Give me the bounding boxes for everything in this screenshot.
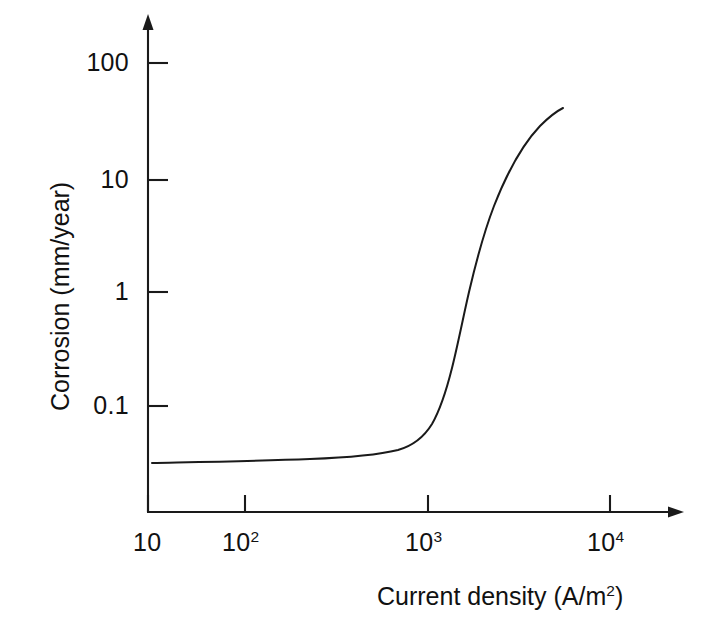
x-axis-arrow-icon [668,507,684,518]
y-tick-label-10: 10 [74,167,129,192]
x-tick-label-100-exponent: 2 [250,528,259,545]
chart-figure: 100 10 1 0.1 10 102 103 104 Corrosion (m… [0,0,707,626]
x-tick-label-1000-mantissa: 10 [405,528,433,556]
x-tick-label-10000-mantissa: 10 [587,528,615,556]
x-axis-title-exponent: 2 [606,582,615,599]
y-axis-title: Corrosion (mm/year) [48,182,73,411]
x-tick-label-10000-exponent: 4 [615,528,624,545]
x-tick-label-1000: 103 [405,530,442,555]
corrosion-curve [152,108,563,463]
y-tick-label-0.1: 0.1 [74,393,129,418]
x-tick-label-100: 102 [222,530,259,555]
x-tick-label-10000: 104 [587,530,624,555]
x-tick-label-10: 10 [133,530,161,555]
x-axis-title: Current density (A/m2) [377,584,623,609]
x-tick-label-10-mantissa: 10 [133,528,161,556]
y-tick-label-100: 100 [74,50,129,75]
y-axis-arrow-icon [143,14,154,30]
y-tick-label-1: 1 [74,279,129,304]
x-tick-label-100-mantissa: 10 [222,528,250,556]
x-tick-label-1000-exponent: 3 [433,528,442,545]
